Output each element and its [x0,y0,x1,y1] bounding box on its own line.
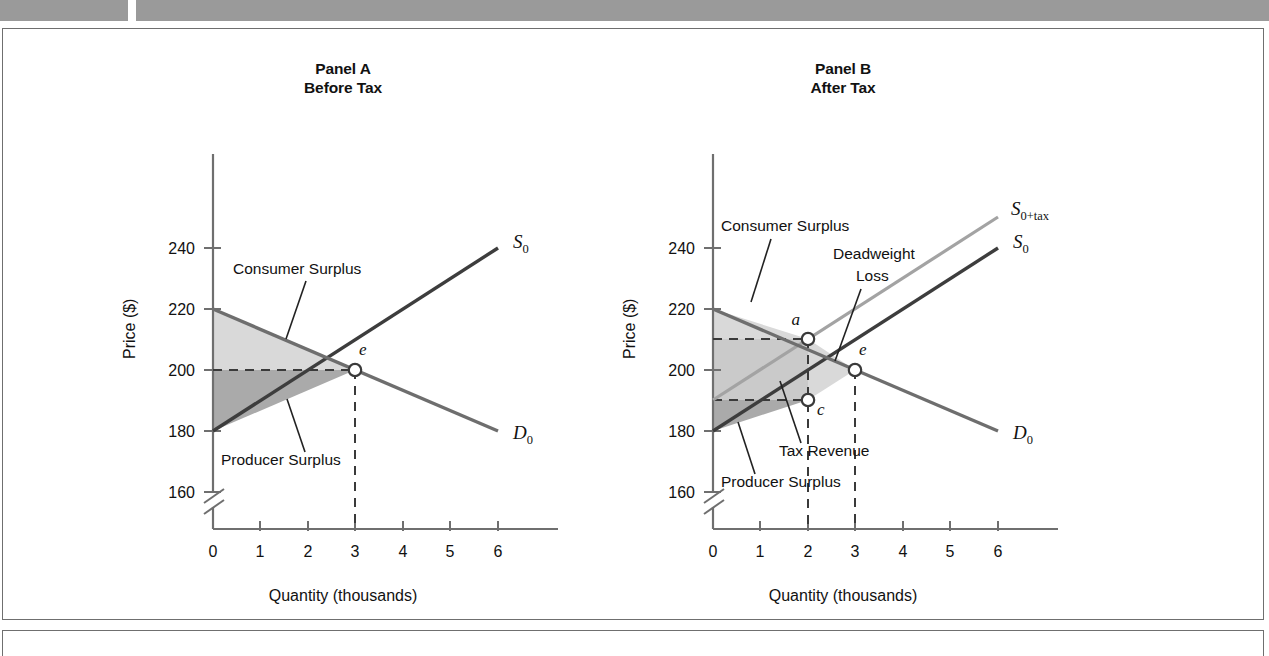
panel-a-producer-surplus-region [213,370,355,431]
panel-b-price-received-point [802,394,814,406]
panel-b-consumer-surplus-leader [751,239,771,302]
panel-a-producer-surplus-label: Producer Surplus [221,451,341,468]
panel-b-supply-label: S0 [1013,231,1029,256]
panel-b-producer-surplus-label: Producer Surplus [721,473,841,490]
panel-a-consumer-surplus-label: Consumer Surplus [233,260,362,277]
panel-b-equilibrium-point [849,364,861,376]
panel-b-price-paid-label: a [792,310,801,329]
panel-a-consumer-surplus-leader [286,281,306,339]
header-bar-segment-right [136,0,1269,21]
panel-a-xtick-2: 2 [304,543,313,559]
panel-b-demand-label: D0 [1012,422,1033,447]
panel-a-xtick-3: 3 [351,543,360,559]
panel-b-tax-revenue-label: Tax Revenue [779,442,869,459]
panel-b-equilibrium-label: e [859,340,867,359]
header-bar-segment-left [0,0,128,21]
panel-a-ytick-220: 220 [168,301,195,318]
panel-a-ytick-200: 200 [168,362,195,379]
panel-b-xtick-3: 3 [851,543,860,559]
panel-b-price-paid-point [802,333,814,345]
panel-b-supply-after-tax-label: S0+tax [1011,198,1050,223]
panel-a-equilibrium-label: e [359,340,367,359]
panel-a-supply-label: S0 [513,231,529,256]
panel-b-x-axis-label: Quantity (thousands) [543,587,1143,605]
panel-b-xtick-6: 6 [994,543,1003,559]
panel-a-xtick-0: 0 [209,543,218,559]
panel-a-ytick-160: 160 [168,484,195,501]
panel-a-equilibrium-point [349,364,361,376]
figure-caption-frame [2,630,1264,656]
panel-a-xtick-6: 6 [494,543,503,559]
panel-a-ytick-240: 240 [168,240,195,257]
panel-a-ytick-180: 180 [168,423,195,440]
panel-b-producer-surplus-region [713,400,808,431]
panel-b-deadweight-loss-leader [835,289,861,361]
panel-b-ytick-160: 160 [668,484,695,501]
panel-a-xtick-5: 5 [446,543,455,559]
panel-b-producer-surplus-leader [738,422,755,474]
panel-b-xtick-2: 2 [804,543,813,559]
panel-b-price-received-label: c [817,400,825,419]
panel-b-xtick-0: 0 [709,543,718,559]
panel-b-deadweight-loss-label-line1: Deadweight [833,245,916,262]
panel-b-ytick-200: 200 [668,362,695,379]
panel-b-xtick-4: 4 [899,543,908,559]
panel-b-deadweight-loss-label-line2: Loss [856,267,889,284]
panel-b: Panel B After Tax Price ($) [543,59,1143,599]
panel-a-xtick-1: 1 [256,543,265,559]
panel-b-ytick-220: 220 [668,301,695,318]
panel-b-consumer-surplus-label: Consumer Surplus [721,217,850,234]
panel-b-xtick-1: 1 [756,543,765,559]
panel-b-ytick-240: 240 [668,240,695,257]
panel-b-plot: 240 220 200 180 160 0 1 2 3 4 5 6 [543,59,1143,559]
figure-frame: Panel A Before Tax Price ($) [2,28,1264,620]
panel-b-ytick-180: 180 [668,423,695,440]
panel-b-xtick-5: 5 [946,543,955,559]
panel-a-xtick-4: 4 [399,543,408,559]
panel-a-producer-surplus-leader [287,399,305,452]
panel-a-demand-label: D0 [512,422,533,447]
